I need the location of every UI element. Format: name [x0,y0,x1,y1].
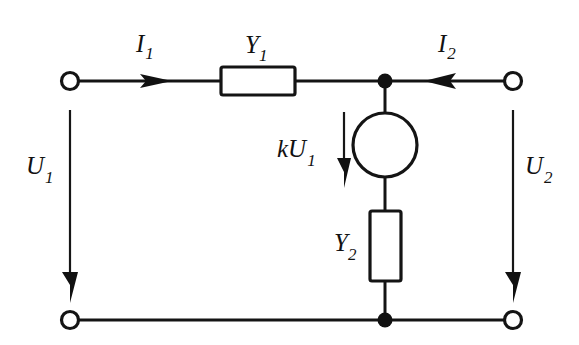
label-y2-sub: 2 [348,245,357,264]
label-y2: Y2 [334,229,357,264]
label-i1: I1 [135,30,154,63]
label-u1: U1 [26,152,54,187]
label-i2-sub: 2 [447,44,456,63]
label-ku1: kU1 [277,135,316,170]
label-ku1-base: kU [277,135,308,162]
terminal-output-top [505,73,522,90]
label-u1-sub: 1 [45,168,54,187]
label-u2: U2 [525,152,553,187]
label-i1-sub: 1 [145,44,154,63]
label-y1-sub: 1 [259,46,268,65]
circuit-svg: I1 I2 Y1 Y2 U1 U2 kU1 [0,0,579,345]
terminal-input-bottom [62,312,79,329]
resistor-y1-body [221,67,295,95]
arrow-ku1-head [337,158,351,188]
circuit-diagram: I1 I2 Y1 Y2 U1 U2 kU1 [0,0,579,345]
terminal-input-top [62,73,79,90]
label-u1-base: U [26,152,46,179]
arrow-u2-head [505,272,521,303]
resistor-y2-body [370,211,401,281]
label-u2-sub: 2 [544,168,553,187]
label-u2-base: U [525,152,545,179]
controlled-source-circle [353,113,417,177]
arrow-u1-head [62,272,78,303]
terminal-output-bottom [505,312,522,329]
label-ku1-sub: 1 [307,151,316,170]
label-y1: Y1 [245,31,267,65]
junction-dot-top [378,74,393,89]
junction-dot-bottom [378,313,393,328]
label-i2: I2 [437,30,456,63]
